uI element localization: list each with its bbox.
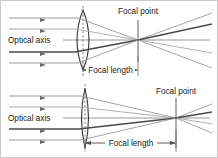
focal-length-label-bottom: Focal length: [109, 139, 154, 148]
optical-axis-label-top-text: Optical axis: [8, 36, 50, 45]
optical-axis-label-bottom-text: Optical axis: [8, 114, 50, 123]
focal-point-label-top-text: Focal point: [118, 7, 159, 16]
optics-figure: Optical axis Focal point Focal length: [0, 0, 218, 158]
ray-diagram-canvas: Optical axis Focal point Focal length: [0, 0, 218, 158]
focal-length-label-top: Focal length: [88, 66, 133, 75]
focal-point-label-bottom-text: Focal point: [156, 87, 197, 96]
